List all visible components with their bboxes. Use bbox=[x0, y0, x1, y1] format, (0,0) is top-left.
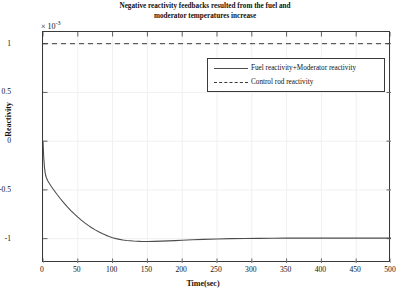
figure: Negative reactivity feedbacks resulted f… bbox=[0, 0, 406, 301]
y-tick-label-0: 1 bbox=[7, 38, 11, 47]
chart-title-line-2: moderator temperatures increase bbox=[55, 12, 355, 22]
chart-title-line-1: Negative reactivity feedbacks resulted f… bbox=[55, 2, 355, 12]
y-axis-multiplier: × 10-3 bbox=[41, 20, 61, 31]
y-axis-multiplier-exponent: -3 bbox=[56, 20, 61, 26]
x-tick-label-10: 500 bbox=[384, 265, 395, 274]
chart-title: Negative reactivity feedbacks resulted f… bbox=[55, 2, 355, 21]
legend-solid-line-icon bbox=[214, 68, 248, 69]
x-axis-label: Time(sec) bbox=[0, 279, 406, 288]
y-axis-multiplier-base: × 10 bbox=[41, 22, 56, 31]
x-tick-label-5: 250 bbox=[210, 265, 221, 274]
x-tick-label-6: 300 bbox=[245, 265, 256, 274]
x-tick-label-3: 150 bbox=[141, 265, 152, 274]
legend-item-control-rod-reactivity: Control rod reactivity bbox=[214, 76, 313, 88]
legend-label-1: Control rod reactivity bbox=[251, 78, 313, 86]
series-line-0 bbox=[43, 141, 391, 241]
y-tick-label-4: -1 bbox=[5, 233, 11, 242]
legend-item-fuel-moderator-reactivity: Fuel reactivity+Moderator reactivity bbox=[214, 62, 356, 74]
x-tick-label-9: 450 bbox=[349, 265, 360, 274]
legend: Fuel reactivity+Moderator reactivity Con… bbox=[207, 58, 385, 92]
x-tick-label-7: 350 bbox=[280, 265, 291, 274]
legend-dashed-line-icon bbox=[214, 82, 248, 83]
x-tick-label-0: 0 bbox=[40, 265, 44, 274]
x-tick-label-8: 400 bbox=[315, 265, 326, 274]
x-tick-label-1: 50 bbox=[73, 265, 81, 274]
y-axis-label: Reactivity bbox=[4, 60, 13, 180]
legend-label-0: Fuel reactivity+Moderator reactivity bbox=[251, 64, 356, 72]
x-tick-label-2: 100 bbox=[106, 265, 117, 274]
x-tick-label-4: 200 bbox=[175, 265, 186, 274]
y-tick-label-3: -0.5 bbox=[0, 184, 11, 193]
